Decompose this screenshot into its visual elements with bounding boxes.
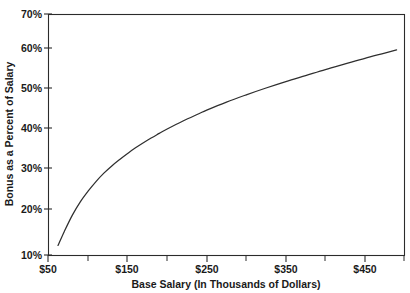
plot-frame bbox=[49, 15, 405, 256]
y-axis-title: Bonus as a Percent of Salary bbox=[3, 61, 15, 206]
x-tick-label-250: $250 bbox=[195, 263, 219, 275]
y-tick-label-70: 70% bbox=[21, 8, 43, 20]
y-tick-label-50: 50% bbox=[21, 82, 43, 94]
y-tick-label-60: 60% bbox=[21, 42, 43, 54]
x-tick-label-450: $450 bbox=[353, 263, 377, 275]
x-tick-label-50: $50 bbox=[39, 263, 57, 275]
data-series-line bbox=[58, 50, 397, 246]
y-tick-label-40: 40% bbox=[21, 122, 43, 134]
y-tick-label-10: 10% bbox=[21, 249, 43, 261]
chart-container: Bonus as a Percent of Salary 70% 60% 50%… bbox=[0, 0, 410, 293]
x-tick-label-350: $350 bbox=[274, 263, 298, 275]
y-tick-label-20: 20% bbox=[21, 203, 43, 215]
x-axis-title: Base Salary (In Thousands of Dollars) bbox=[131, 278, 320, 290]
x-tick-label-150: $150 bbox=[115, 263, 139, 275]
bonus-vs-salary-line-chart: Bonus as a Percent of Salary 70% 60% 50%… bbox=[0, 0, 410, 293]
y-tick-label-30: 30% bbox=[21, 162, 43, 174]
